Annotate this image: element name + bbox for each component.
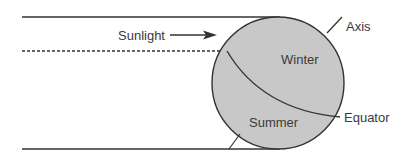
equator-label: Equator (344, 110, 390, 125)
axis-line-bottom (229, 134, 240, 149)
sunlight-arrow-icon (170, 31, 217, 40)
winter-label: Winter (281, 52, 319, 67)
sunlight-label: Sunlight (118, 28, 165, 43)
axis-line-top (327, 17, 342, 33)
axis-label: Axis (346, 19, 371, 34)
summer-label: Summer (249, 115, 299, 130)
earth-seasons-diagram: Sunlight Axis Winter Summer Equator (0, 0, 407, 160)
